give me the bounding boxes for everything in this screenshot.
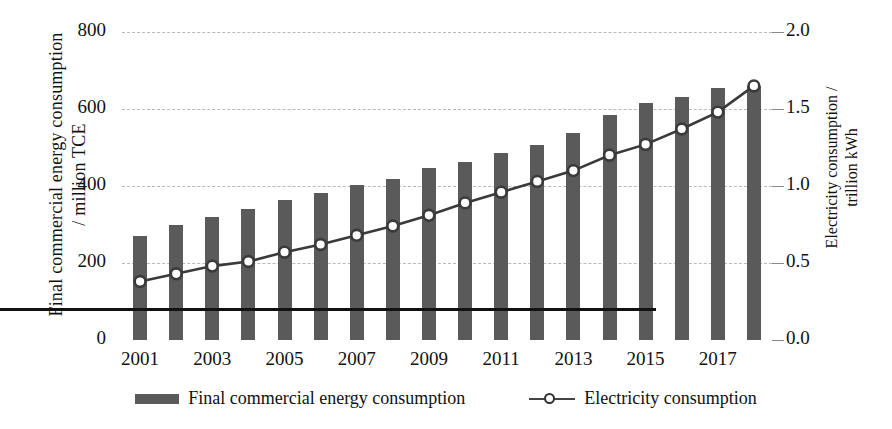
line-marker-2007	[351, 230, 362, 241]
x-tick-label-2011: 2011	[471, 348, 531, 370]
line-marker-2012	[532, 176, 543, 187]
line-marker-2017	[712, 107, 723, 118]
x-tick-label-2001: 2001	[110, 348, 170, 370]
right-tick-mark	[772, 32, 784, 33]
line-marker-2002	[171, 268, 182, 279]
line-marker-2016	[676, 124, 687, 135]
left-tick-label: 800	[28, 19, 106, 41]
left-tick-label: 0	[28, 327, 106, 349]
right-tick-label: 1.5	[786, 96, 856, 118]
right-tick-mark	[772, 340, 784, 341]
x-tick-label-2007: 2007	[327, 348, 387, 370]
legend-label-line: Electricity consumption	[584, 388, 756, 409]
bar-swatch-icon	[135, 394, 179, 404]
chart-legend: Final commercial energy consumption Elec…	[0, 388, 892, 409]
x-tick-label-2009: 2009	[399, 348, 459, 370]
legend-label-bar: Final commercial energy consumption	[188, 388, 465, 409]
right-tick-label: 2.0	[786, 19, 856, 41]
line-marker-2014	[604, 150, 615, 161]
line-marker-2008	[387, 221, 398, 232]
left-tick-label: 200	[28, 250, 106, 272]
line-circle-swatch-icon	[529, 392, 575, 406]
x-tick-label-2017: 2017	[688, 348, 748, 370]
line-marker-2004	[243, 256, 254, 267]
line-marker-2001	[135, 276, 146, 287]
left-tick-label: 600	[28, 96, 106, 118]
right-tick-label: 1.0	[786, 173, 856, 195]
x-tick-label-2003: 2003	[182, 348, 242, 370]
line-series	[122, 32, 772, 340]
line-marker-2011	[496, 187, 507, 198]
left-tick-label: 400	[28, 173, 106, 195]
line-marker-2006	[315, 239, 326, 250]
x-tick-label-2013: 2013	[543, 348, 603, 370]
legend-item-line: Electricity consumption	[529, 388, 756, 409]
right-tick-mark	[772, 263, 784, 264]
x-axis-line	[0, 308, 656, 311]
right-tick-mark	[772, 186, 784, 187]
right-tick-label: 0.0	[786, 327, 856, 349]
chart-figure: Final commercial energy consumption / mi…	[0, 0, 892, 429]
line-marker-2013	[568, 165, 579, 176]
x-tick-label-2015: 2015	[616, 348, 676, 370]
line-marker-2015	[640, 139, 651, 150]
line-marker-2010	[460, 198, 471, 209]
line-marker-2003	[207, 261, 218, 272]
legend-item-bar: Final commercial energy consumption	[135, 388, 465, 409]
x-tick-label-2005: 2005	[255, 348, 315, 370]
right-tick-label: 0.5	[786, 250, 856, 272]
plot-area	[122, 32, 772, 340]
line-path	[140, 86, 754, 282]
right-tick-mark	[772, 109, 784, 110]
line-marker-2018	[749, 81, 760, 92]
line-marker-2005	[279, 247, 290, 258]
line-marker-2009	[424, 210, 435, 221]
